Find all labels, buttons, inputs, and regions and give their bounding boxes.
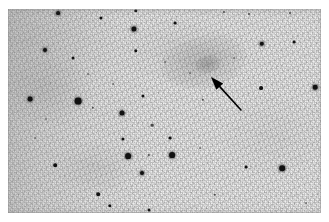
star [169,137,172,140]
star [279,165,285,171]
star [174,22,177,25]
star [141,94,144,97]
star [233,57,235,59]
star [72,57,75,60]
film-grain-layer-3 [8,9,321,213]
star [125,153,131,159]
star [92,107,94,109]
star [28,97,33,102]
star [108,204,111,207]
star [134,49,137,52]
star [34,137,36,139]
star [99,16,102,19]
star [112,83,114,85]
arrow-shaft [220,87,241,110]
star [259,86,263,90]
star [140,171,144,175]
star [148,154,150,156]
star [223,11,225,13]
star [214,194,216,196]
plate-edge-shading [8,9,321,213]
star [151,124,154,127]
diffuse-galaxy-core [193,52,222,75]
star [56,11,60,15]
film-grain-layer-1 [8,9,321,213]
star [134,9,137,12]
star [293,41,296,44]
star [199,147,201,149]
star [164,61,166,63]
star [45,118,47,120]
star [169,152,175,158]
star [96,192,100,196]
star [121,137,124,140]
film-grain-layer-2 [8,9,321,213]
star [131,26,136,31]
star [260,42,264,46]
star [248,13,250,15]
star [305,202,307,204]
star [75,98,82,105]
arrow-head [211,77,223,90]
diffuse-galaxy [157,28,252,97]
star [202,99,204,101]
star [148,209,151,212]
star [87,73,89,75]
astronomical-image-page [0,0,329,222]
pointer-arrow [8,9,321,213]
star [53,163,57,167]
photographic-plate [8,9,321,213]
plate-mottling [8,9,321,213]
star [189,72,191,74]
star [313,85,318,90]
star [245,166,248,169]
star [43,48,47,52]
left-density-gradient [8,9,321,213]
star [120,111,125,116]
star [289,12,291,14]
